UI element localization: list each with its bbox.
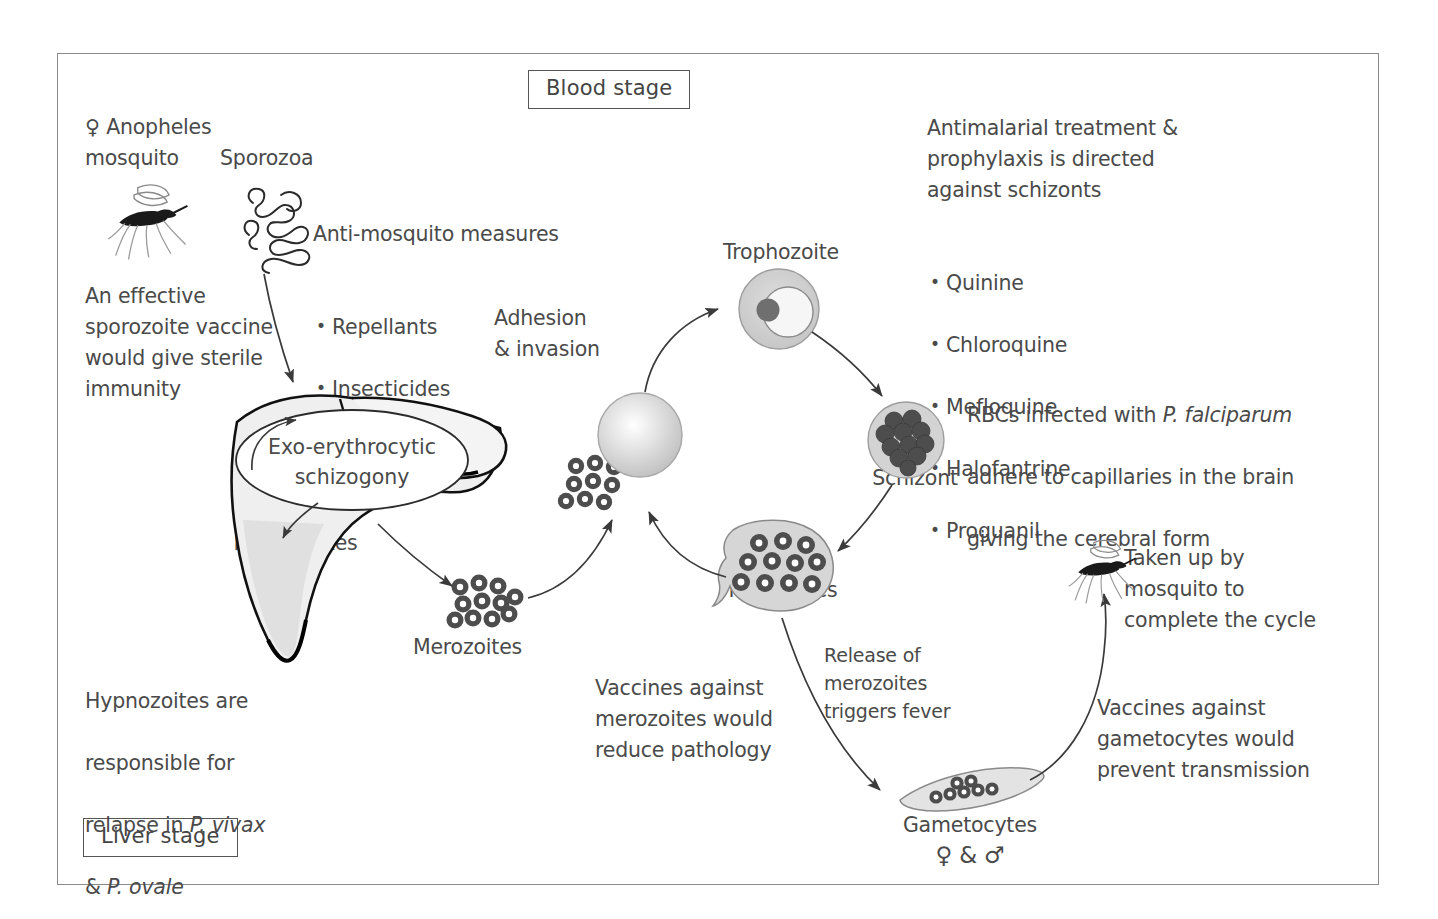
label-exo-erythrocytic-line1: Exo-erythrocytic <box>268 435 436 459</box>
gametocyte-icon <box>900 768 1044 811</box>
diagram-canvas: Blood stage Liver stage ♀ Anopheles mosq… <box>0 0 1438 919</box>
label-exo-erythrocytic-line2: schizogony <box>295 465 410 489</box>
mosquito-icon-top <box>108 185 187 259</box>
trophozoite-icon <box>739 269 819 349</box>
arrow-liver-to-merozoites <box>378 524 452 586</box>
merozoite-cluster-icon-liver <box>447 575 524 629</box>
merozoite-ruptured-cell-icon <box>713 520 833 611</box>
schizont-icon <box>868 402 944 478</box>
arrow-gametocytes-to-mosquito <box>1030 594 1106 780</box>
red-blood-cell-icon <box>598 393 682 477</box>
diagram-graphics: Exo-erythrocytic schizogony <box>0 0 1438 919</box>
arrow-schizont-to-merozoites <box>838 485 892 551</box>
mosquito-icon-bottom <box>1069 540 1136 603</box>
arrow-merozoites-to-rbc <box>649 512 726 577</box>
sporozoa-icon <box>245 189 310 273</box>
arrow-trophozoite-to-schizont <box>812 332 882 396</box>
arrow-sporozoa-to-liver <box>264 274 293 382</box>
arrow-rbc-to-trophozoite <box>645 309 718 392</box>
exo-erythrocytic-ellipse <box>236 410 468 510</box>
arrow-liver-merozoites-to-rbc <box>528 520 612 598</box>
arrow-merozoites-to-gametocytes <box>782 618 880 790</box>
